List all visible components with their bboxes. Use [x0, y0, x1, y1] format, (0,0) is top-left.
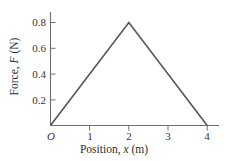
x-tick-label-2: 2: [119, 131, 139, 142]
y-axis-title-variable: F: [8, 56, 20, 63]
y-axis-title-prefix: Force,: [8, 63, 20, 95]
y-axis-title-suffix: (N): [8, 38, 20, 57]
y-tick-label-0.6: 0.6: [22, 43, 46, 54]
y-tick-label-0.4: 0.4: [22, 69, 46, 80]
x-axis-title-suffix: (m): [129, 143, 148, 155]
x-tick-label-1: 1: [80, 131, 100, 142]
y-axis-title: Force, F (N): [8, 17, 21, 117]
force-position-chart: 0.8 0.6 0.4 0.2 O 1 2 3 4 Position, x (m…: [0, 0, 228, 162]
x-tick-label-origin: O: [41, 131, 61, 142]
x-tick-label-4: 4: [197, 131, 217, 142]
y-tick-label-0.8: 0.8: [22, 17, 46, 28]
x-axis-title-prefix: Position,: [80, 143, 123, 155]
force-series-line: [51, 23, 208, 126]
x-axis-title: Position, x (m): [0, 143, 228, 156]
x-tick-label-3: 3: [158, 131, 178, 142]
y-tick-label-0.2: 0.2: [22, 95, 46, 106]
